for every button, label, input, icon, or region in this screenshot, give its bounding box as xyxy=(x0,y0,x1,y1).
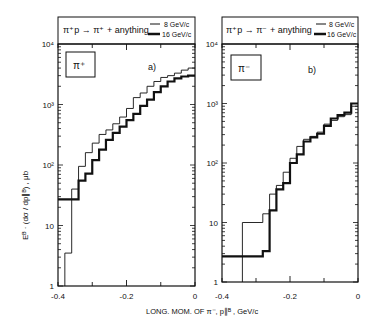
figure: π⁺p → π⁺ + anything 8 GeV/c 16 GeV/c π⁺ … xyxy=(0,0,377,330)
legend-8-label: 8 GeV/c xyxy=(164,21,190,28)
legend-16-label-b: 16 GeV/c xyxy=(327,31,357,38)
y-tick-label: 10 xyxy=(209,219,218,228)
y-tick-label: 10⁴ xyxy=(42,40,55,49)
x-tick-label: 0 xyxy=(356,292,361,301)
panel-a-id: a) xyxy=(148,62,156,72)
panel-b-histograms xyxy=(222,104,358,283)
panel-b-title: π⁺p → π⁻ + anything xyxy=(226,25,312,35)
panel-b-id: b) xyxy=(308,65,316,75)
panel-a: π⁺p → π⁺ + anything 8 GeV/c 16 GeV/c π⁺ … xyxy=(42,17,198,301)
x-axis-label: LONG. MOM. OF π⁻, p∥ᴮ , GeV/c xyxy=(146,307,258,316)
y-tick-label: 10² xyxy=(206,159,218,168)
y-tick-label: 1 xyxy=(50,282,55,291)
x-tick-label: -0.2 xyxy=(120,292,134,301)
x-tick-label: -0.4 xyxy=(215,292,229,301)
particle-label-a: π⁺ xyxy=(73,60,85,71)
y-tick-label: 10³ xyxy=(42,101,54,110)
panel-b: π⁺p → π⁻ + anything 8 GeV/c 16 GeV/c π⁻ … xyxy=(206,17,361,301)
x-tick-label: -0.2 xyxy=(283,292,297,301)
particle-label-b: π⁻ xyxy=(238,63,250,74)
y-tick-label: 1 xyxy=(214,278,219,287)
y-tick-label: 10² xyxy=(42,161,54,170)
x-tick-label: 0 xyxy=(193,292,198,301)
x-tick-label: -0.4 xyxy=(51,292,65,301)
y-tick-label: 10 xyxy=(45,222,54,231)
y-tick-label: 10³ xyxy=(206,100,218,109)
histogram-16gev xyxy=(58,76,195,200)
panel-a-histograms xyxy=(58,68,195,286)
y-tick-label: 10⁴ xyxy=(206,40,219,49)
panel-a-title: π⁺p → π⁺ + anything xyxy=(63,25,149,35)
legend-16-label: 16 GeV/c xyxy=(162,31,192,38)
legend-8-label-b: 8 GeV/c xyxy=(329,21,355,28)
panel-b-axes: 11010²10³10⁴-0.4-0.20 xyxy=(206,40,361,301)
y-axis-label: Eᴮ · (dσ / dp∥ᴮ) , μb xyxy=(21,170,30,240)
